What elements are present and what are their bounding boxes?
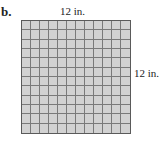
grid-cell: [85, 49, 94, 58]
grid-cell: [22, 58, 31, 67]
grid-cell: [103, 105, 112, 114]
grid-cell: [49, 86, 58, 95]
grid-cell: [76, 68, 85, 77]
grid-cell: [121, 68, 130, 77]
grid-cell: [112, 49, 121, 58]
grid-cell: [103, 49, 112, 58]
grid-cell: [58, 124, 67, 133]
grid-cell: [22, 105, 31, 114]
grid-cell: [85, 105, 94, 114]
grid-cell: [31, 77, 40, 86]
grid-cell: [94, 21, 103, 30]
grid-cell: [76, 40, 85, 49]
grid-cell: [49, 40, 58, 49]
grid-cell: [76, 114, 85, 123]
grid-cell: [22, 96, 31, 105]
grid-cell: [103, 30, 112, 39]
grid-cell: [49, 105, 58, 114]
grid-cell: [58, 30, 67, 39]
grid-cell: [76, 86, 85, 95]
grid-cell: [49, 96, 58, 105]
grid-cell: [31, 105, 40, 114]
grid-cell: [76, 77, 85, 86]
grid-cell: [121, 58, 130, 67]
grid-cell: [67, 86, 76, 95]
grid-cell: [85, 68, 94, 77]
grid-cell: [67, 114, 76, 123]
grid-cell: [49, 58, 58, 67]
grid-cell: [112, 68, 121, 77]
grid-cell: [112, 40, 121, 49]
grid-cell: [31, 30, 40, 39]
grid-cell: [112, 124, 121, 133]
grid-cell: [40, 124, 49, 133]
grid-cell: [94, 40, 103, 49]
grid-cell: [94, 77, 103, 86]
grid-cell: [85, 77, 94, 86]
grid-cell: [76, 105, 85, 114]
grid-cell: [58, 86, 67, 95]
square-grid: [21, 20, 131, 134]
grid-cell: [112, 58, 121, 67]
grid-cell: [22, 40, 31, 49]
grid-cell: [31, 86, 40, 95]
grid-cell: [67, 30, 76, 39]
grid-cell: [121, 105, 130, 114]
grid-cell: [58, 49, 67, 58]
grid-cell: [85, 30, 94, 39]
grid-cell: [67, 96, 76, 105]
grid-cell: [49, 77, 58, 86]
grid-cell: [40, 105, 49, 114]
grid-cell: [112, 114, 121, 123]
grid-cell: [94, 105, 103, 114]
grid-cell: [85, 86, 94, 95]
grid-cell: [103, 40, 112, 49]
grid-cell: [31, 58, 40, 67]
grid-cell: [94, 68, 103, 77]
grid-cell: [40, 40, 49, 49]
grid-cell: [112, 86, 121, 95]
grid-cell: [85, 58, 94, 67]
grid-cell: [103, 96, 112, 105]
grid-cell: [85, 96, 94, 105]
grid-cell: [94, 86, 103, 95]
grid-cell: [67, 105, 76, 114]
grid-cell: [49, 114, 58, 123]
grid-cell: [22, 68, 31, 77]
grid-cell: [121, 21, 130, 30]
grid-cell: [49, 21, 58, 30]
grid-cell: [67, 21, 76, 30]
grid-cell: [22, 77, 31, 86]
grid-cell: [121, 96, 130, 105]
grid-cell: [40, 86, 49, 95]
grid-cell: [85, 40, 94, 49]
grid-cell: [67, 68, 76, 77]
grid-cell: [112, 96, 121, 105]
grid-cell: [85, 21, 94, 30]
grid-cell: [94, 49, 103, 58]
grid-cell: [58, 105, 67, 114]
grid-cell: [40, 30, 49, 39]
grid-cell: [112, 30, 121, 39]
grid-cell: [22, 124, 31, 133]
grid-cell: [94, 30, 103, 39]
grid-cell: [103, 21, 112, 30]
grid-cell: [103, 68, 112, 77]
grid-cell: [121, 77, 130, 86]
grid-cell: [112, 21, 121, 30]
side-dimension-label: 12 in.: [134, 67, 159, 79]
grid-cell: [76, 30, 85, 39]
grid-cell: [67, 77, 76, 86]
grid-cell: [103, 86, 112, 95]
grid-cell: [112, 105, 121, 114]
grid-cell: [49, 68, 58, 77]
grid-cell: [40, 58, 49, 67]
grid-cell: [121, 124, 130, 133]
grid-cell: [40, 68, 49, 77]
grid-cell: [85, 114, 94, 123]
grid-cell: [76, 49, 85, 58]
grid-cell: [103, 124, 112, 133]
grid-cell: [67, 49, 76, 58]
grid-cell: [121, 40, 130, 49]
grid-cell: [76, 124, 85, 133]
